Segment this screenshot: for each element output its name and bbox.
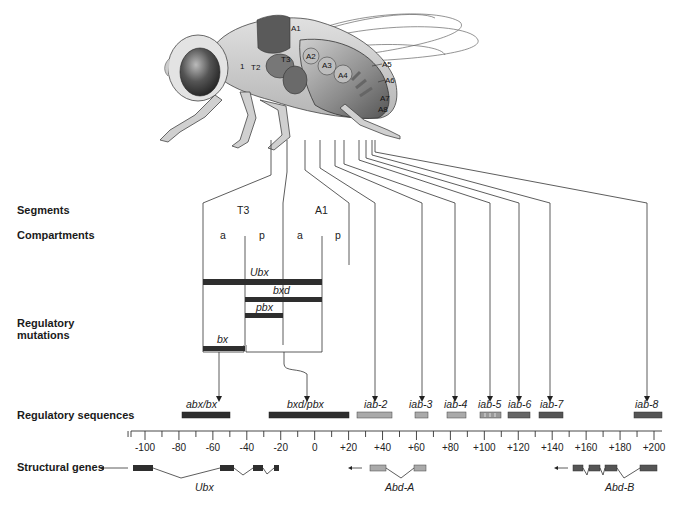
fly-illustration: 1 T2 T3 A1 A2 A3 A4 A5 A6 A7 A8 bbox=[160, 14, 478, 150]
label-regulatory-mutations-1: Regulatory bbox=[17, 317, 75, 329]
regseq-bxd-pbx-label: bxd/pbx bbox=[287, 398, 325, 410]
fly-label-A5: A5 bbox=[382, 60, 392, 69]
regseq-iab-4-label: iab-4 bbox=[444, 398, 468, 410]
ruler-tick-label: 0 bbox=[312, 442, 318, 453]
ruler-tick-label: +40 bbox=[374, 442, 391, 453]
ruler-tick-label: -80 bbox=[172, 442, 187, 453]
ruler-tick-label: -100 bbox=[135, 442, 155, 453]
fly-label-A1: A1 bbox=[291, 24, 301, 33]
mutation-bx-bar bbox=[203, 346, 245, 351]
ruler-tick-label: +100 bbox=[473, 442, 496, 453]
ruler-tick-label: +120 bbox=[507, 442, 530, 453]
label-regulatory-mutations-2: mutations bbox=[17, 329, 70, 341]
regseq-iab-6-label: iab-6 bbox=[508, 398, 532, 410]
mutation-pbx-bar bbox=[245, 313, 283, 318]
segment-T3: T3 bbox=[237, 204, 249, 216]
label-regulatory-sequences: Regulatory sequences bbox=[17, 409, 134, 421]
structural-gene-Abd-B: Abd-B bbox=[554, 465, 657, 493]
regseq-iab-8-label: iab-8 bbox=[635, 398, 659, 410]
kb-ruler: -100-80-60-40-200+20+40+60+80+100+120+14… bbox=[128, 431, 666, 453]
arrowheads bbox=[216, 396, 650, 402]
regseq-iab-3-bar bbox=[415, 412, 428, 418]
fly-haltere-region bbox=[257, 15, 290, 53]
fly-label-A4: A4 bbox=[338, 71, 348, 80]
fly-label-A2: A2 bbox=[306, 52, 316, 61]
fly-label-T1: 1 bbox=[240, 62, 245, 71]
fly-label-T3: T3 bbox=[281, 55, 291, 64]
regseq-iab-3-label: iab-3 bbox=[409, 398, 433, 410]
compartment-T3-p: p bbox=[259, 229, 265, 241]
structural-gene-Ubx: Ubx bbox=[133, 465, 279, 493]
ruler-tick-label: +80 bbox=[442, 442, 459, 453]
regseq-bxd-pbx-bar bbox=[269, 412, 349, 418]
gene-Abd-B-label: Abd-B bbox=[604, 481, 634, 493]
bithorax-diagram: 1 T2 T3 A1 A2 A3 A4 A5 A6 A7 A8 bbox=[0, 0, 684, 507]
label-structural-genes: Structural genes bbox=[17, 461, 104, 473]
compartment-A1-a: a bbox=[297, 229, 303, 241]
ruler-tick-label: +140 bbox=[541, 442, 564, 453]
gene-Abd-A-label: Abd-A bbox=[384, 481, 414, 493]
regseq-iab-7-bar bbox=[539, 412, 563, 418]
ruler-tick-label: -20 bbox=[274, 442, 289, 453]
structural-gene-Abd-A: Abd-A bbox=[348, 465, 426, 493]
ruler-tick-label: +200 bbox=[643, 442, 666, 453]
segment-connector-lines bbox=[203, 140, 647, 400]
regseq-iab-8-bar bbox=[634, 412, 662, 418]
regseq-iab-4-bar bbox=[447, 412, 466, 418]
gene-Ubx-label: Ubx bbox=[195, 481, 214, 493]
label-segments: Segments bbox=[17, 204, 70, 216]
fly-label-A7: A7 bbox=[380, 94, 390, 103]
ruler-tick-label: +60 bbox=[408, 442, 425, 453]
ruler-tick-label: -40 bbox=[240, 442, 255, 453]
fly-label-A8: A8 bbox=[378, 105, 388, 114]
fly-label-T2: T2 bbox=[251, 63, 261, 72]
regseq-iab-2-label: iab-2 bbox=[364, 398, 388, 410]
mutation-pbx-label: pbx bbox=[255, 301, 274, 313]
mutation-Ubx-bar bbox=[203, 279, 322, 285]
mutation-Ubx-label: Ubx bbox=[250, 266, 269, 278]
ruler-tick-label: -60 bbox=[206, 442, 221, 453]
ruler-tick-label: +160 bbox=[575, 442, 598, 453]
regseq-abx-bx-bar bbox=[182, 412, 230, 418]
ruler-tick-label: +20 bbox=[340, 442, 357, 453]
compartment-A1-p: p bbox=[335, 229, 341, 241]
segment-A1: A1 bbox=[315, 204, 328, 216]
fly-label-A3: A3 bbox=[322, 61, 332, 70]
compartment-T3-a: a bbox=[220, 229, 226, 241]
regseq-iab-6-bar bbox=[508, 412, 530, 418]
fly-eye bbox=[180, 48, 220, 96]
ruler-tick-label: +180 bbox=[609, 442, 632, 453]
regseq-abx-bx-label: abx/bx bbox=[186, 398, 218, 410]
fly-label-A6: A6 bbox=[385, 76, 395, 85]
regseq-iab-5-label: iab-5 bbox=[478, 398, 502, 410]
mutation-bxd-label: bxd bbox=[273, 284, 291, 296]
regulatory-sequences: abx/bx bxd/pbx iab-2 iab-3 iab-4 iab-5 i… bbox=[182, 398, 662, 418]
regseq-iab-2-bar bbox=[357, 412, 392, 418]
regseq-iab-7-label: iab-7 bbox=[540, 398, 565, 410]
mutation-bx-label: bx bbox=[217, 333, 229, 345]
label-compartments: Compartments bbox=[17, 229, 95, 241]
